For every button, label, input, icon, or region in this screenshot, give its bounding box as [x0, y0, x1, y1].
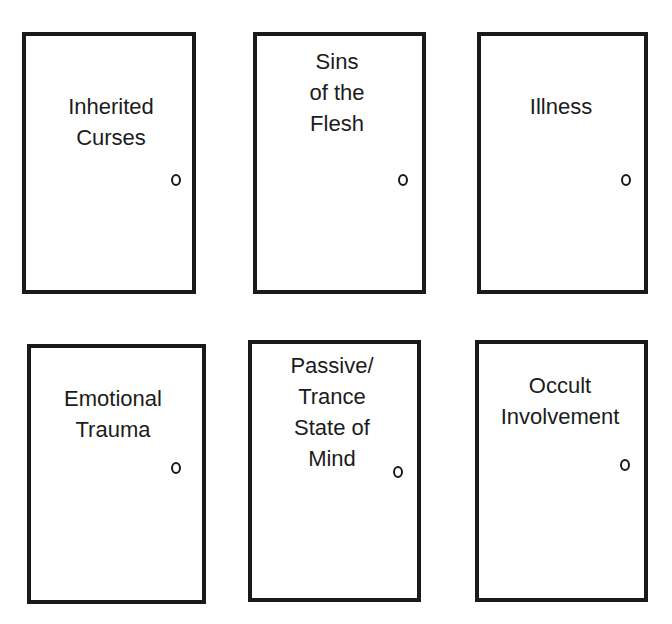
door-label-line: Inherited — [56, 91, 166, 122]
door-label-line: of the — [287, 77, 387, 108]
door-label: Passive/TranceState ofMind — [277, 350, 387, 474]
door-label-line: Sins — [287, 46, 387, 77]
door-label: EmotionalTrauma — [53, 383, 173, 445]
door-inherited-curses: InheritedCurses — [22, 32, 196, 294]
door-label-line: Illness — [521, 91, 601, 122]
door-label-line: Involvement — [485, 401, 635, 432]
door-knob-icon — [171, 174, 181, 186]
door-occult-involvement: OccultInvolvement — [475, 340, 648, 602]
door-label-line: State of — [277, 412, 387, 443]
door-knob-icon — [620, 459, 630, 471]
door-emotional-trauma: EmotionalTrauma — [27, 344, 206, 604]
door-label: Sinsof theFlesh — [287, 46, 387, 139]
door-label-line: Occult — [485, 370, 635, 401]
door-knob-icon — [398, 174, 408, 186]
door-label-line: Mind — [277, 443, 387, 474]
door-label: InheritedCurses — [56, 91, 166, 153]
door-label-line: Trance — [277, 381, 387, 412]
door-sins-of-the-flesh: Sinsof theFlesh — [253, 32, 426, 294]
door-label-line: Flesh — [287, 108, 387, 139]
door-label: Illness — [521, 91, 601, 122]
door-label-line: Emotional — [53, 383, 173, 414]
door-passive-trance-state-of-mind: Passive/TranceState ofMind — [248, 340, 421, 602]
door-label-line: Trauma — [53, 414, 173, 445]
door-knob-icon — [171, 462, 181, 474]
door-label: OccultInvolvement — [485, 370, 635, 432]
door-label-line: Curses — [56, 122, 166, 153]
door-knob-icon — [621, 174, 631, 186]
door-knob-icon — [393, 466, 403, 478]
door-illness: Illness — [477, 32, 648, 294]
door-label-line: Passive/ — [277, 350, 387, 381]
